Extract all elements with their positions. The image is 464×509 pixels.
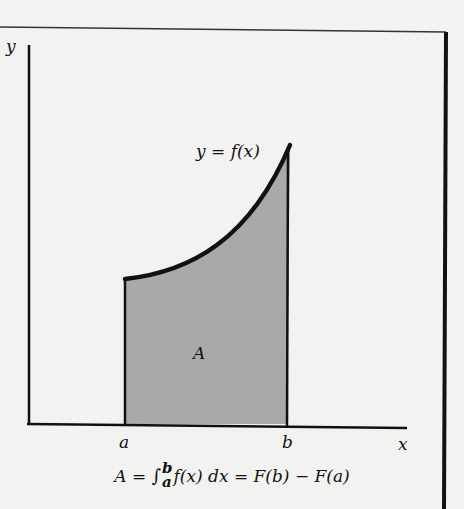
frame-right-border: [444, 32, 446, 509]
shaded-area-region: [125, 145, 290, 424]
diagram-figure: y x y = f(x) A a b A = ∫baf(x) dx = F(b)…: [0, 0, 464, 509]
upper-limit-line: [287, 150, 288, 427]
lower-limit-label: a: [119, 434, 129, 451]
formula-lhs: A: [114, 466, 126, 486]
upper-limit-label: b: [282, 434, 293, 451]
formula-equals-2: =: [229, 466, 254, 486]
formula-rhs: F(b) − F(a): [254, 466, 350, 486]
y-axis-label: y: [6, 38, 16, 55]
integral-limits: ba: [162, 462, 173, 489]
area-label: A: [193, 345, 205, 362]
formula-equals-1: =: [127, 466, 152, 486]
curve-label: y = f(x): [196, 143, 260, 160]
integral-formula: A = ∫baf(x) dx = F(b) − F(a): [0, 464, 464, 491]
x-axis-label: x: [398, 436, 408, 453]
frame-top-border: [0, 27, 446, 32]
integral-lower-limit: a: [162, 476, 173, 490]
integral-sign: ∫: [152, 465, 161, 486]
formula-integrand: f(x) dx: [173, 466, 228, 486]
x-axis: [27, 424, 407, 428]
diagram-canvas: [0, 0, 464, 509]
